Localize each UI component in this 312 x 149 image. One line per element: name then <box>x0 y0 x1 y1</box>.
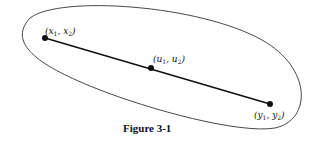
figure-caption: Figure 3-1 <box>123 122 171 134</box>
label-x: (x1, x2) <box>45 26 76 37</box>
point-u <box>148 65 154 71</box>
convex-set-diagram: (x1, x2) (u1, u2) (y1, y2) Figure 3-1 <box>0 0 312 149</box>
line-segment <box>45 38 270 104</box>
label-u: (u1, u2) <box>153 54 186 65</box>
point-y <box>267 101 273 107</box>
label-y: (y1, y2) <box>254 110 285 121</box>
